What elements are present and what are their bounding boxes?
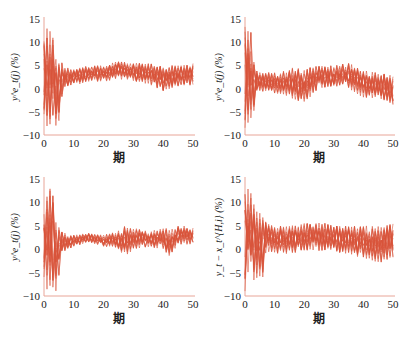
y-tick-label: 10 xyxy=(230,36,242,48)
x-tick-label: 30 xyxy=(328,137,340,149)
x-tick-label: 0 xyxy=(41,137,47,149)
x-tick-label: 10 xyxy=(68,298,80,310)
x-tick-label: 40 xyxy=(158,137,170,149)
x-tick-label: 50 xyxy=(188,137,200,149)
y-tick-label: −10 xyxy=(224,290,242,302)
x-tick-label: 50 xyxy=(388,298,400,310)
y-axis-label: y_t − x_t^{H,i} (%) xyxy=(213,197,225,277)
series-lines xyxy=(245,27,393,128)
x-tick-label: 30 xyxy=(128,137,140,149)
x-tick-label: 50 xyxy=(188,298,200,310)
panel-bottom-left: −10−505101501020304050期y^e_t(j) (%) xyxy=(9,173,199,326)
y-tick-label: −5 xyxy=(229,106,241,118)
y-tick-label: 0 xyxy=(236,243,242,255)
y-tick-label: 0 xyxy=(35,243,41,255)
y-tick-label: 15 xyxy=(29,13,41,25)
x-tick-label: 0 xyxy=(242,298,248,310)
chart-grid: −10−505101501020304050期y^e_t(j) (%)−10−5… xyxy=(0,0,408,342)
x-tick-label: 10 xyxy=(269,137,281,149)
x-axis-label: 期 xyxy=(113,150,125,165)
y-tick-label: 10 xyxy=(29,36,41,48)
y-tick-label: 5 xyxy=(236,220,242,232)
y-tick-label: −10 xyxy=(224,129,242,141)
y-tick-label: −5 xyxy=(229,267,241,279)
y-axis-label: y^e_t(j) (%) xyxy=(9,212,21,261)
x-tick-label: 30 xyxy=(328,298,340,310)
y-tick-label: −5 xyxy=(28,106,40,118)
y-axis-label: y^e_t(j) (%) xyxy=(9,52,21,101)
y-tick-label: 5 xyxy=(236,59,242,71)
panel-top-right: −10−505101501020304050期y^e_t(j) (%) xyxy=(213,13,399,165)
y-tick-label: 15 xyxy=(230,173,242,185)
x-axis-label: 期 xyxy=(313,311,325,326)
series-lines xyxy=(44,189,193,291)
x-tick-label: 20 xyxy=(299,298,311,310)
panel-bottom-right: −10−505101501020304050期y_t − x_t^{H,i} (… xyxy=(213,173,399,326)
series-lines xyxy=(44,29,193,126)
y-tick-label: 15 xyxy=(29,173,41,185)
x-tick-label: 40 xyxy=(358,137,370,149)
x-tick-label: 20 xyxy=(299,137,311,149)
y-tick-label: 0 xyxy=(35,83,41,95)
y-tick-label: −10 xyxy=(23,129,41,141)
y-tick-label: −5 xyxy=(28,267,40,279)
x-tick-label: 20 xyxy=(98,137,110,149)
x-tick-label: 0 xyxy=(242,137,248,149)
series-lines xyxy=(245,189,393,291)
x-tick-label: 40 xyxy=(158,298,170,310)
x-tick-label: 40 xyxy=(358,298,370,310)
y-tick-label: −10 xyxy=(23,290,41,302)
x-axis-label: 期 xyxy=(313,150,325,165)
figure: −10−505101501020304050期y^e_t(j) (%)−10−5… xyxy=(0,0,408,342)
y-tick-label: 0 xyxy=(236,83,242,95)
y-tick-label: 5 xyxy=(35,59,41,71)
x-tick-label: 0 xyxy=(41,298,47,310)
x-tick-label: 50 xyxy=(388,137,400,149)
panel-top-left: −10−505101501020304050期y^e_t(j) (%) xyxy=(9,13,199,165)
x-tick-label: 20 xyxy=(98,298,110,310)
x-axis-label: 期 xyxy=(113,311,125,326)
x-tick-label: 30 xyxy=(128,298,140,310)
x-tick-label: 10 xyxy=(68,137,80,149)
y-tick-label: 10 xyxy=(230,196,242,208)
x-tick-label: 10 xyxy=(269,298,281,310)
y-tick-label: 10 xyxy=(29,196,41,208)
y-tick-label: 15 xyxy=(230,13,242,25)
y-tick-label: 5 xyxy=(35,220,41,232)
y-axis-label: y^e_t(j) (%) xyxy=(213,52,225,101)
